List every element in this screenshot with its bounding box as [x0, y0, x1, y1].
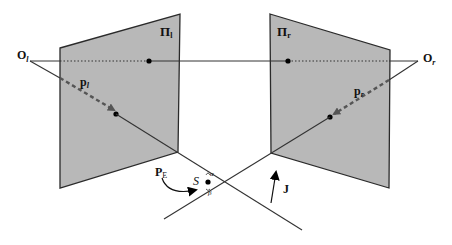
- right-epipole-point: [285, 58, 290, 63]
- left-ray-outside: [30, 61, 60, 78]
- left-epipole-point: [146, 58, 151, 63]
- right-ray-outside: [389, 61, 418, 80]
- edge-point-label: PE: [155, 165, 167, 180]
- j-arrow: [271, 172, 276, 203]
- left-image-plane: [60, 14, 180, 188]
- pe-curved-arrow: [162, 178, 196, 192]
- right-center-label: Or: [423, 51, 436, 67]
- left-center-label: Ol: [17, 48, 29, 64]
- stereo-diagram: Ol Or Πl Πr pl pr PE S α β J: [0, 0, 452, 245]
- right-ray-extension: [164, 117, 330, 219]
- beta-label: β: [207, 189, 212, 197]
- right-image-plane: [270, 14, 390, 188]
- alpha-label: α: [210, 170, 214, 178]
- surface-point: [205, 179, 210, 184]
- junction-label: J: [283, 182, 289, 196]
- surface-label: S: [193, 174, 199, 188]
